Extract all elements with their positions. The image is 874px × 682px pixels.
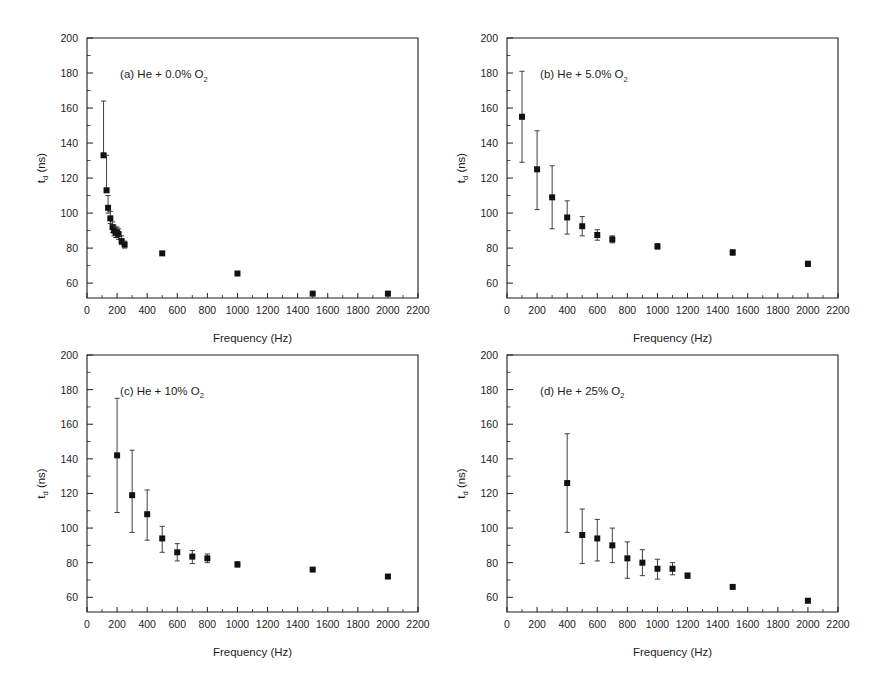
data-point-marker <box>579 532 585 538</box>
y-tick-label: 140 <box>60 453 78 465</box>
y-tick-label: 200 <box>60 32 78 44</box>
data-point-marker <box>105 205 111 211</box>
x-tick-label: 1000 <box>646 304 670 316</box>
y-axis-ticks: 6080100120140160180200 <box>480 349 513 603</box>
x-tick-label: 1000 <box>226 304 250 316</box>
y-tick-label: 100 <box>60 522 78 534</box>
data-point-marker <box>670 566 676 572</box>
y-axis-title: td (ns) <box>455 153 470 184</box>
y-tick-label: 180 <box>60 67 78 79</box>
x-axis-title: Frequency (Hz) <box>633 646 712 658</box>
y-tick-label: 100 <box>60 207 78 219</box>
y-tick-label: 120 <box>60 172 78 184</box>
x-tick-label: 400 <box>558 304 576 316</box>
data-point-marker <box>310 567 316 573</box>
panel-c: 0200400600800100012001400160018002000220… <box>25 339 444 674</box>
y-tick-label: 100 <box>480 207 498 219</box>
x-axis-ticks: 0200400600800100012001400160018002000220… <box>504 607 850 630</box>
x-tick-label: 0 <box>84 618 90 630</box>
data-point-marker <box>730 249 736 255</box>
y-tick-label: 140 <box>480 453 498 465</box>
data-point-marker <box>685 573 691 579</box>
x-tick-label: 2000 <box>376 304 400 316</box>
x-tick-label: 600 <box>589 304 607 316</box>
x-tick-label: 2000 <box>796 304 820 316</box>
data-point-marker <box>159 535 165 541</box>
x-tick-label: 0 <box>504 304 510 316</box>
x-tick-label: 1400 <box>706 304 730 316</box>
y-tick-label: 60 <box>66 591 78 603</box>
data-point-marker <box>114 452 120 458</box>
figure-canvas: 0200400600800100012001400160018002000220… <box>0 0 874 682</box>
x-tick-label: 800 <box>199 304 217 316</box>
x-tick-label: 1200 <box>676 304 700 316</box>
data-point-marker <box>730 584 736 590</box>
data-point-marker <box>609 236 615 242</box>
y-tick-label: 120 <box>60 487 78 499</box>
x-tick-label: 200 <box>108 304 126 316</box>
y-tick-label: 100 <box>480 522 498 534</box>
data-point-marker <box>805 261 811 267</box>
x-tick-label: 400 <box>558 618 576 630</box>
y-axis-ticks: 6080100120140160180200 <box>60 349 93 603</box>
data-series <box>519 71 811 267</box>
data-point-marker <box>234 561 240 567</box>
x-tick-label: 1600 <box>736 618 760 630</box>
data-point-marker <box>805 598 811 604</box>
data-point-marker <box>624 555 630 561</box>
data-point-marker <box>107 215 113 221</box>
y-axis-ticks: 6080100120140160180200 <box>60 32 93 289</box>
x-axis-ticks: 0200400600800100012001400160018002000220… <box>84 293 430 316</box>
x-tick-label: 1400 <box>286 618 310 630</box>
y-axis-title: td (ns) <box>35 468 50 499</box>
y-tick-label: 160 <box>60 102 78 114</box>
x-tick-label: 2200 <box>406 618 430 630</box>
y-axis-title: td (ns) <box>35 153 50 184</box>
data-point-marker <box>204 555 210 561</box>
data-point-marker <box>519 114 525 120</box>
x-tick-label: 1000 <box>226 618 250 630</box>
y-tick-label: 160 <box>480 418 498 430</box>
y-tick-label: 80 <box>486 242 498 254</box>
x-tick-label: 1000 <box>646 618 670 630</box>
y-tick-label: 200 <box>480 349 498 361</box>
data-point-marker <box>534 166 540 172</box>
data-point-marker <box>549 194 555 200</box>
data-point-marker <box>385 574 391 580</box>
data-point-marker <box>174 549 180 555</box>
data-point-marker <box>104 187 110 193</box>
data-point-marker <box>609 542 615 548</box>
data-series <box>564 434 811 604</box>
y-tick-label: 140 <box>480 137 498 149</box>
data-point-marker <box>654 243 660 249</box>
data-point-marker <box>564 214 570 220</box>
y-tick-label: 180 <box>480 67 498 79</box>
data-point-marker <box>310 291 316 297</box>
x-tick-label: 800 <box>619 618 637 630</box>
data-point-marker <box>189 554 195 560</box>
x-tick-label: 0 <box>84 304 90 316</box>
x-tick-label: 2200 <box>826 304 850 316</box>
x-tick-label: 800 <box>199 618 217 630</box>
data-point-marker <box>159 250 165 256</box>
data-point-marker <box>385 291 391 297</box>
y-tick-label: 120 <box>480 172 498 184</box>
x-axis-ticks: 0200400600800100012001400160018002000220… <box>504 293 850 316</box>
y-tick-label: 160 <box>60 418 78 430</box>
panel-d: 0200400600800100012001400160018002000220… <box>445 339 864 674</box>
x-tick-label: 1600 <box>316 304 340 316</box>
y-tick-label: 80 <box>486 557 498 569</box>
x-tick-label: 1400 <box>706 618 730 630</box>
x-tick-label: 800 <box>619 304 637 316</box>
data-point-marker <box>122 242 128 248</box>
panel-title: (a) He + 0.0% O2 <box>120 68 208 83</box>
x-tick-label: 2000 <box>376 618 400 630</box>
data-point-marker <box>129 492 135 498</box>
x-tick-label: 1800 <box>766 618 790 630</box>
x-tick-label: 1200 <box>256 618 280 630</box>
x-tick-label: 2000 <box>796 618 820 630</box>
x-axis-title: Frequency (Hz) <box>213 646 292 658</box>
panel-title: (c) He + 10% O2 <box>120 385 204 400</box>
x-tick-label: 1400 <box>286 304 310 316</box>
x-tick-label: 1600 <box>736 304 760 316</box>
